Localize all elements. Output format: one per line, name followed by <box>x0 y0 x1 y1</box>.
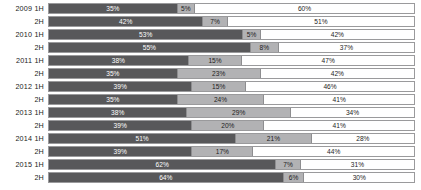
row-label: 2010 1H <box>0 29 48 40</box>
row-label: 2H <box>0 94 48 105</box>
bar-segment-1: 5% <box>242 30 260 39</box>
bar-segment-2: 30% <box>304 173 414 182</box>
chart-row: 2H55%8%37% <box>0 42 415 53</box>
bar-segment-0: 38% <box>49 108 186 117</box>
row-label: 2H <box>0 172 48 183</box>
chart-row: 2H42%7%51% <box>0 16 415 27</box>
chart-row: 2014 1H51%21%28% <box>0 133 415 144</box>
bar-segment-1: 17% <box>191 147 253 156</box>
chart-row: 2H39%20%41% <box>0 120 415 131</box>
bar-segment-2: 34% <box>291 108 414 117</box>
chart-row: 2H64%6%30% <box>0 172 415 183</box>
bar-segment-2: 37% <box>279 43 414 52</box>
bar-segment-2: 60% <box>195 4 414 13</box>
bar-segment-1: 29% <box>186 108 291 117</box>
bar-track: 35%23%42% <box>48 68 415 79</box>
bar-segment-2: 41% <box>264 95 414 104</box>
bar-segment-1: 20% <box>191 121 264 130</box>
chart-row: 2011 1H38%15%47% <box>0 55 415 66</box>
row-label: 2H <box>0 68 48 79</box>
row-label: 2H <box>0 120 48 131</box>
bar-segment-1: 24% <box>177 95 265 104</box>
bar-segment-0: 64% <box>49 173 283 182</box>
chart-row: 2H35%24%41% <box>0 94 415 105</box>
bar-segment-0: 38% <box>49 56 188 65</box>
bar-segment-1: 23% <box>177 69 261 78</box>
bar-segment-1: 8% <box>250 43 279 52</box>
bar-track: 42%7%51% <box>48 16 415 27</box>
bar-track: 62%7%31% <box>48 159 415 170</box>
bar-track: 38%15%47% <box>48 55 415 66</box>
chart-row: 2013 1H38%29%34% <box>0 107 415 118</box>
bar-track: 39%15%46% <box>48 81 415 92</box>
bar-track: 64%6%30% <box>48 172 415 183</box>
bar-track: 35%24%41% <box>48 94 415 105</box>
row-label: 2H <box>0 42 48 53</box>
row-label: 2013 1H <box>0 107 48 118</box>
bar-segment-2: 41% <box>264 121 414 130</box>
stacked-bar-chart: 2009 1H35%5%60%2H42%7%51%2010 1H53%5%42%… <box>0 0 421 190</box>
chart-row: 2H35%23%42% <box>0 68 415 79</box>
bar-track: 53%5%42% <box>48 29 415 40</box>
chart-row: 2H39%17%44% <box>0 146 415 157</box>
row-label: 2H <box>0 16 48 27</box>
bar-track: 55%8%37% <box>48 42 415 53</box>
bar-segment-1: 15% <box>188 56 243 65</box>
bar-segment-0: 35% <box>49 95 177 104</box>
bar-segment-0: 51% <box>49 134 235 143</box>
bar-track: 39%17%44% <box>48 146 415 157</box>
row-label: 2014 1H <box>0 133 48 144</box>
bar-segment-0: 39% <box>49 147 191 156</box>
bar-segment-0: 42% <box>49 17 202 26</box>
chart-row: 2010 1H53%5%42% <box>0 29 415 40</box>
bar-segment-2: 42% <box>261 30 414 39</box>
chart-row: 2012 1H39%15%46% <box>0 81 415 92</box>
bar-track: 35%5%60% <box>48 3 415 14</box>
bar-segment-0: 39% <box>49 121 191 130</box>
bar-segment-2: 51% <box>228 17 414 26</box>
bar-segment-2: 47% <box>242 56 414 65</box>
chart-row: 2009 1H35%5%60% <box>0 3 415 14</box>
bar-segment-2: 46% <box>246 82 414 91</box>
bar-segment-0: 53% <box>49 30 242 39</box>
bar-segment-2: 42% <box>261 69 414 78</box>
bar-segment-1: 7% <box>275 160 301 169</box>
chart-row: 2015 1H62%7%31% <box>0 159 415 170</box>
bar-segment-0: 35% <box>49 69 177 78</box>
bar-segment-2: 44% <box>253 147 414 156</box>
row-label: 2012 1H <box>0 81 48 92</box>
bar-segment-1: 15% <box>191 82 246 91</box>
bar-track: 51%21%28% <box>48 133 415 144</box>
bar-segment-2: 31% <box>301 160 414 169</box>
bar-segment-0: 39% <box>49 82 191 91</box>
row-label: 2H <box>0 146 48 157</box>
bar-segment-1: 5% <box>177 4 195 13</box>
bar-segment-0: 35% <box>49 4 177 13</box>
bar-segment-2: 28% <box>312 134 414 143</box>
row-label: 2011 1H <box>0 55 48 66</box>
bar-segment-1: 6% <box>283 173 305 182</box>
bar-track: 38%29%34% <box>48 107 415 118</box>
row-label: 2009 1H <box>0 3 48 14</box>
bar-segment-0: 55% <box>49 43 250 52</box>
bar-segment-1: 21% <box>235 134 312 143</box>
row-label: 2015 1H <box>0 159 48 170</box>
bar-track: 39%20%41% <box>48 120 415 131</box>
bar-segment-0: 62% <box>49 160 275 169</box>
bar-segment-1: 7% <box>202 17 228 26</box>
